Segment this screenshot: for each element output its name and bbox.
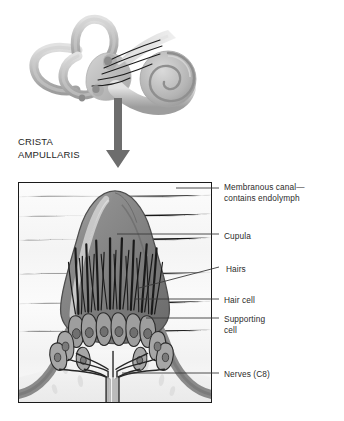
label-hairs: Hairs	[226, 264, 344, 275]
nerve-trunk	[107, 377, 118, 402]
label-cupula: Cupula	[224, 231, 342, 242]
label-supporting-cell: Supporting cell	[224, 314, 342, 336]
lateral-semicircular-canal	[34, 47, 78, 90]
label-nerves: Nerves (C8)	[224, 369, 342, 380]
label-hair-cell: Hair cell	[224, 295, 342, 306]
crista-ampullaris-figure: CRISTA AMPULLARIS	[0, 0, 344, 421]
cochlea	[140, 51, 196, 107]
label-membranous-canal: Membranous canal— contains endolymph	[224, 182, 342, 204]
crista-detail-panel	[18, 182, 212, 403]
section-heading: CRISTA AMPULLARIS	[18, 136, 128, 161]
crista-ampullaris-drawing	[19, 183, 211, 402]
